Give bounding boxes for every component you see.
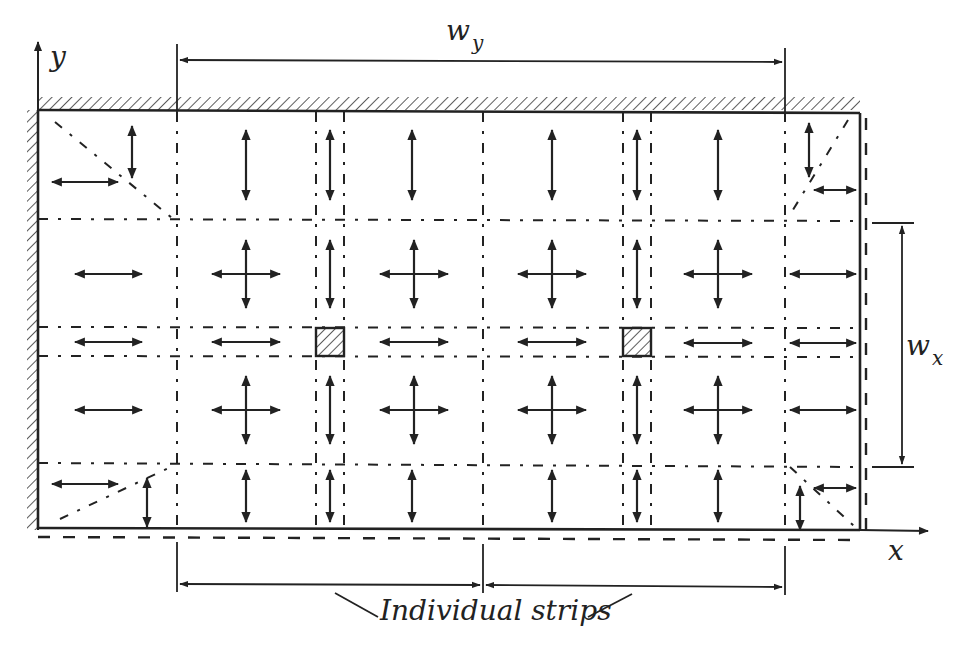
strip-method-diagram: y x	[0, 0, 958, 666]
y-axis: y	[38, 40, 67, 530]
y-axis-label: y	[48, 40, 67, 73]
individual-strips-label: Individual strips	[379, 594, 612, 627]
diagram-canvas: y x	[0, 0, 958, 666]
free-edges	[38, 118, 866, 540]
column-support-left	[316, 328, 344, 356]
fixed-support-top	[38, 97, 860, 110]
strip-lines-vertical	[177, 112, 785, 528]
dimension-wx-label: wx	[906, 329, 943, 370]
column-support-right	[623, 328, 651, 356]
x-axis-label: x	[888, 534, 904, 567]
dimension-wy-label: wy	[446, 14, 484, 55]
x-axis: x	[860, 530, 928, 567]
